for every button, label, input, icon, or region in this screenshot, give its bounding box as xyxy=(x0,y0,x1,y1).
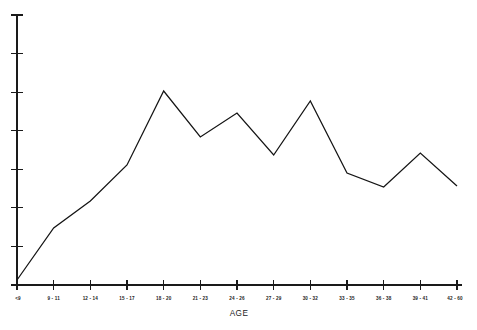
x-axis-tick-label: 18 - 20 xyxy=(156,296,172,301)
data-series-line xyxy=(17,91,457,280)
line-chart-plot: <99 - 1112 - 1415 - 1718 - 2021 - 2324 -… xyxy=(0,0,477,330)
x-axis-group xyxy=(17,280,462,290)
x-axis-tick-label: 15 - 17 xyxy=(119,296,135,301)
x-axis-tick-label: 27 - 29 xyxy=(266,296,282,301)
x-axis-tick-label: 39 - 41 xyxy=(413,296,429,301)
chart-container: <99 - 1112 - 1415 - 1718 - 2021 - 2324 -… xyxy=(0,0,477,330)
x-axis-tick-label: 33 - 35 xyxy=(339,296,355,301)
x-axis-tick-label: 24 - 26 xyxy=(229,296,245,301)
x-axis-tick-label: 30 - 32 xyxy=(303,296,319,301)
x-axis-title: AGE xyxy=(230,309,249,318)
x-axis-tick-label: 12 - 14 xyxy=(83,296,99,301)
x-axis-tick-label: <9 xyxy=(15,296,21,301)
x-axis-tick-labels: <99 - 1112 - 1415 - 1718 - 2021 - 2324 -… xyxy=(15,296,463,301)
x-axis-tick-label: 36 - 38 xyxy=(376,296,392,301)
x-axis-tick-label: 21 - 23 xyxy=(193,296,209,301)
x-axis-tick-label: 9 - 11 xyxy=(47,296,60,301)
y-axis-group xyxy=(11,15,23,285)
x-axis-tick-label: 42 - 60 xyxy=(447,296,463,301)
